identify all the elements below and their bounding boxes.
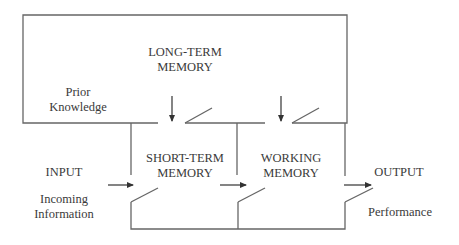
- long-term-memory-label: LONG-TERM MEMORY: [148, 45, 222, 75]
- stm-line2: MEMORY: [146, 166, 224, 181]
- incoming-information-label: Incoming Information: [34, 192, 94, 222]
- memory-model-diagram: LONG-TERM MEMORY Prior Knowledge INPUT I…: [0, 0, 459, 245]
- wm-input-gate: [238, 188, 265, 202]
- input-label: INPUT: [46, 165, 83, 180]
- short-term-memory-label: SHORT-TERM MEMORY: [146, 151, 224, 181]
- stm-line1: SHORT-TERM: [146, 151, 224, 166]
- stm-input-gate: [131, 188, 158, 202]
- output-label: OUTPUT: [374, 165, 423, 180]
- ltm-line2: MEMORY: [148, 60, 222, 75]
- performance-label: Performance: [368, 205, 432, 220]
- working-memory-label: WORKING MEMORY: [261, 151, 321, 181]
- ltm-to-wm-gate: [292, 108, 319, 123]
- prior-knowledge-label: Prior Knowledge: [49, 85, 107, 115]
- wm-line2: MEMORY: [261, 166, 321, 181]
- output-gate: [345, 188, 373, 202]
- ltm-line1: LONG-TERM: [148, 45, 222, 60]
- incoming-line1: Incoming: [34, 192, 94, 207]
- wm-line1: WORKING: [261, 151, 321, 166]
- prior-line2: Knowledge: [49, 100, 107, 115]
- incoming-line2: Information: [34, 207, 94, 222]
- prior-line1: Prior: [49, 85, 107, 100]
- ltm-to-stm-gate: [185, 108, 212, 123]
